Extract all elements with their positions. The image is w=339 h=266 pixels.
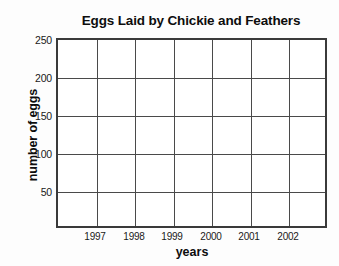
x-tick-label: 2000 [191, 231, 231, 242]
x-tick-label: 2002 [268, 231, 308, 242]
gridline-horizontal [58, 78, 325, 79]
gridline-vertical [251, 40, 252, 226]
gridline-vertical [212, 40, 213, 226]
gridline-vertical [289, 40, 290, 226]
y-tick-label: 150 [22, 110, 52, 122]
y-tick-label: 50 [22, 186, 52, 198]
gridline-horizontal [58, 192, 325, 193]
gridline-vertical [135, 40, 136, 226]
x-tick-label: 2001 [229, 231, 269, 242]
y-tick-label: 200 [22, 72, 52, 84]
gridline-vertical [174, 40, 175, 226]
x-tick-label: 1997 [75, 231, 115, 242]
x-tick-label: 1999 [152, 231, 192, 242]
y-tick-label: 100 [22, 148, 52, 160]
gridline-horizontal [58, 116, 325, 117]
plot-area [56, 38, 327, 228]
gridlines [58, 40, 325, 226]
x-axis-title: years [56, 245, 328, 259]
gridline-horizontal [58, 154, 325, 155]
gridline-vertical [97, 40, 98, 226]
y-tick-label: 250 [22, 34, 52, 46]
chart-screenshot: Eggs Laid by Chickie and Feathers number… [0, 0, 339, 266]
chart-title: Eggs Laid by Chickie and Feathers [52, 13, 330, 28]
x-tick-label: 1998 [114, 231, 154, 242]
